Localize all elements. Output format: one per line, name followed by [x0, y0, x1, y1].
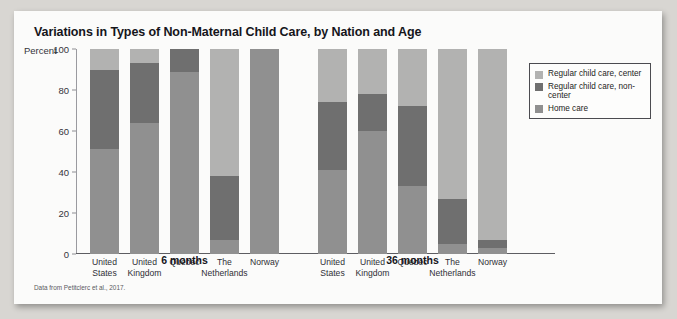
legend-swatch-home [535, 105, 543, 113]
legend-swatch-center [535, 71, 543, 79]
legend-label: Home care [548, 104, 588, 114]
bar-stack [170, 49, 199, 254]
source-note: Data from Petitclerc et al., 2017. [34, 284, 125, 291]
bar-segment-noncenter [398, 106, 427, 186]
bar-segment-home [358, 131, 387, 254]
bar-segment-home [438, 244, 467, 254]
legend-item: Regular child care, non-center [535, 82, 644, 101]
plot-area: 100806040200 United StatesUnited Kingdom… [76, 49, 551, 254]
bar-segment-center [358, 49, 387, 94]
bar-stack [478, 49, 507, 254]
bar-stack [130, 49, 159, 254]
legend-label: Regular child care, non-center [548, 82, 644, 101]
bar-segment-home [210, 240, 239, 254]
bar-segment-home [398, 186, 427, 254]
bar-segment-center [478, 49, 507, 240]
bar-stack [318, 49, 347, 254]
bar-segment-noncenter [358, 94, 387, 131]
bar-segment-center [318, 49, 347, 102]
legend-swatch-noncenter [535, 83, 543, 91]
bar-segment-home [90, 149, 119, 254]
bar-segment-noncenter [210, 176, 239, 240]
page-title: Variations in Types of Non-Maternal Chil… [34, 25, 421, 39]
bar-segment-center [130, 49, 159, 63]
chart-legend: Regular child care, centerRegular child … [529, 63, 651, 119]
bar-segment-home [318, 170, 347, 254]
bar-segment-noncenter [170, 49, 199, 72]
figure-card: Variations in Types of Non-Maternal Chil… [14, 11, 662, 304]
bar-segment-center [210, 49, 239, 176]
bars-container [76, 49, 551, 254]
bar-segment-center [438, 49, 467, 199]
y-axis-title: Percent [24, 45, 57, 56]
bar-stack [398, 49, 427, 254]
legend-item: Regular child care, center [535, 69, 644, 79]
bar-segment-center [398, 49, 427, 106]
bar-stack [90, 49, 119, 254]
bar-segment-home [250, 49, 279, 254]
bar-segment-noncenter [478, 240, 507, 248]
group-label: 36 months [278, 254, 547, 266]
bar-stack [210, 49, 239, 254]
legend-item: Home care [535, 104, 644, 114]
legend-label: Regular child care, center [548, 69, 641, 79]
bar-segment-home [170, 72, 199, 254]
bar-segment-noncenter [90, 70, 119, 150]
bar-segment-center [90, 49, 119, 70]
bar-stack [438, 49, 467, 254]
bar-segment-noncenter [130, 63, 159, 122]
bar-segment-noncenter [318, 102, 347, 170]
bar-stack [358, 49, 387, 254]
bar-segment-noncenter [438, 199, 467, 244]
bar-stack [250, 49, 279, 254]
bar-segment-home [130, 123, 159, 254]
